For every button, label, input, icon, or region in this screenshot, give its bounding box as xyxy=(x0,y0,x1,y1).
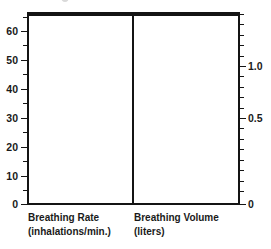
axis-left-tick-minor xyxy=(23,132,27,133)
axis-right-tick-minor xyxy=(240,181,244,182)
caption-breathing-rate-unit: (inhalations/min.) xyxy=(28,225,111,239)
axis-right-tick-major xyxy=(240,66,246,67)
axis-right-tick-minor xyxy=(240,35,244,36)
axis-right-tick-major xyxy=(240,204,246,205)
axis-left-tick-minor xyxy=(23,103,27,104)
caption-breathing-volume-label: Breathing Volume xyxy=(134,212,219,223)
axis-left-tick-label: 40 xyxy=(6,84,18,95)
chart-figure: 60504030201001.00.50 Breathing Rate (inh… xyxy=(0,0,271,249)
axis-left-tick-major xyxy=(21,31,27,32)
axis-right-tick-minor xyxy=(240,160,244,161)
axis-left-tick-minor xyxy=(23,161,27,162)
axis-right-tick-minor xyxy=(240,76,244,77)
axis-left-tick-minor xyxy=(23,45,27,46)
axis-right-tick-minor xyxy=(240,45,244,46)
axis-left-tick-major xyxy=(21,118,27,119)
axis-left-tick-label: 10 xyxy=(6,171,18,182)
axis-right-tick-minor xyxy=(240,149,244,150)
axis-right-tick-minor xyxy=(240,170,244,171)
panel-divider-line xyxy=(132,12,134,205)
axis-left-tick-label: 20 xyxy=(6,142,18,153)
caption-breathing-rate: Breathing Rate (inhalations/min.) xyxy=(28,211,111,238)
axis-left-tick-minor xyxy=(23,74,27,75)
axis-right-tick-minor xyxy=(240,14,244,15)
axis-right-tick-minor xyxy=(240,139,244,140)
cropped-title-glyph xyxy=(61,0,69,2)
axis-left-tick-major xyxy=(21,89,27,90)
axis-right-tick-label: 1.0 xyxy=(248,61,263,72)
axis-left-tick-label: 50 xyxy=(6,55,18,66)
axis-right-tick-minor xyxy=(240,24,244,25)
axis-left-tick-label: 60 xyxy=(6,26,18,37)
axis-left-tick-major xyxy=(21,147,27,148)
axis-right-tick-minor xyxy=(240,191,244,192)
axis-right-tick-minor xyxy=(240,56,244,57)
axis-left-tick-major xyxy=(21,60,27,61)
axis-left-tick-major xyxy=(21,204,27,205)
axis-right-tick-label: 0.5 xyxy=(248,113,263,124)
caption-breathing-rate-label: Breathing Rate xyxy=(28,212,99,223)
axis-right-tick-minor xyxy=(240,128,244,129)
caption-breathing-volume-unit: (liters) xyxy=(134,225,219,239)
axis-left-tick-major xyxy=(21,176,27,177)
axis-right-tick-label: 0 xyxy=(248,199,254,210)
caption-breathing-volume: Breathing Volume (liters) xyxy=(134,211,219,238)
axis-right-tick-minor xyxy=(240,97,244,98)
axis-right-tick-major xyxy=(240,118,246,119)
axis-right-tick-minor xyxy=(240,108,244,109)
axis-left-tick-minor xyxy=(23,190,27,191)
axis-left-tick-minor xyxy=(23,17,27,18)
axis-left-tick-label: 0 xyxy=(12,199,18,210)
axis-right-tick-minor xyxy=(240,87,244,88)
axis-left-line xyxy=(27,12,29,205)
axis-left-tick-label: 30 xyxy=(6,113,18,124)
